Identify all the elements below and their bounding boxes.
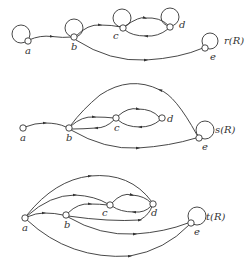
edge-c-b: [96, 120, 114, 128]
edge-c-d: [118, 109, 138, 116]
edge-a-e: [27, 220, 130, 256]
edge-b-c: [71, 117, 94, 126]
label-a: a: [25, 45, 31, 56]
node-c: [120, 25, 126, 31]
label-c: c: [113, 30, 119, 41]
edge-d-c: [146, 29, 168, 36]
label-a: a: [20, 132, 26, 143]
edge-d-c: [140, 120, 160, 127]
edge-e-b: [160, 90, 197, 135]
diagram-symmetric-closure: a b c d e s(R): [20, 84, 236, 152]
diagram-title-r: r(R): [224, 35, 244, 46]
edge-a-b: [29, 36, 52, 40]
label-e: e: [194, 226, 200, 237]
node-d: [167, 24, 173, 30]
node-c: [113, 115, 119, 121]
node-a: [25, 38, 31, 44]
node-b: [66, 125, 72, 131]
label-b: b: [71, 41, 77, 52]
node-a: [22, 215, 28, 221]
diagram-title-s: s(R): [215, 124, 236, 135]
node-e: [202, 45, 208, 51]
diagram-transitive-closure: a b c d e t(R): [22, 176, 226, 257]
edge-b-c: [76, 25, 100, 36]
node-a: [20, 125, 26, 131]
loop-d: [161, 8, 179, 26]
node-b: [63, 212, 69, 218]
label-c: c: [102, 207, 108, 218]
label-b: b: [66, 132, 72, 143]
edge-b-e: [71, 130, 138, 148]
loop-c: [113, 9, 131, 27]
label-d: d: [179, 19, 185, 30]
label-a: a: [22, 222, 28, 233]
closure-diagrams: a b c d e r(R) a b c d e s(R): [0, 0, 252, 277]
label-c: c: [114, 122, 120, 133]
label-e: e: [210, 51, 216, 62]
node-c: [107, 202, 113, 208]
node-d: [159, 115, 165, 121]
edge-c-d: [112, 194, 132, 203]
label-d: d: [151, 207, 157, 218]
label-d: d: [167, 113, 173, 124]
edge-d-c: [134, 206, 151, 212]
diagram-reflexive-closure: a b c d e r(R): [12, 8, 244, 62]
label-b: b: [64, 219, 70, 230]
diagram-title-t: t(R): [206, 211, 225, 222]
edge-a-b: [25, 123, 45, 127]
edge-b-e: [76, 40, 146, 60]
label-e: e: [202, 141, 208, 152]
node-b: [71, 34, 77, 40]
edge-b-c: [68, 204, 90, 213]
